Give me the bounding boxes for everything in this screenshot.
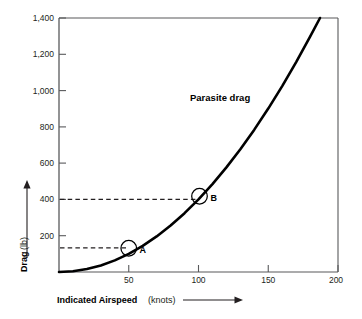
y-axis-title-group: Drag (lb) (19, 180, 31, 272)
xtick-label-200: 200 (329, 275, 343, 285)
ytick-label-600: 600 (40, 158, 54, 168)
curve-label-parasite-drag: Parasite drag (190, 92, 250, 103)
plot-frame (59, 18, 338, 272)
ytick-label-1400: 1,400 (33, 13, 55, 23)
point-marker-b (192, 188, 208, 204)
chart-page: 1,400 1,200 1,000 800 600 400 200 50 100… (0, 0, 362, 319)
y-axis-title-bold: Drag (19, 251, 29, 272)
point-label-b: B (211, 193, 218, 203)
ytick-label-400: 400 (40, 194, 54, 204)
xtick-label-150: 150 (261, 275, 275, 285)
ytick-label-1000: 1,000 (33, 86, 55, 96)
ytick-label-800: 800 (40, 122, 54, 132)
x-axis-tick-labels: 50 100 150 200 (124, 275, 343, 285)
ytick-label-200: 200 (40, 231, 54, 241)
x-axis-arrow-head-right-icon (235, 297, 244, 304)
x-axis-title-unit: (knots) (148, 295, 176, 305)
ytick-label-1200: 1,200 (33, 49, 55, 59)
point-label-a: A (140, 245, 147, 255)
xtick-label-50: 50 (124, 275, 134, 285)
xtick-label-100: 100 (191, 275, 205, 285)
x-axis-title-group: Indicated Airspeed (knots) (57, 295, 243, 305)
y-axis-tick-labels: 1,400 1,200 1,000 800 600 400 200 (33, 13, 55, 241)
parasite-drag-chart: 1,400 1,200 1,000 800 600 400 200 50 100… (0, 0, 362, 319)
parasite-drag-curve (59, 18, 320, 272)
y-axis-title-unit: (lb) (19, 237, 29, 250)
y-axis-arrow-head-up-icon (23, 180, 30, 189)
x-axis-title-bold: Indicated Airspeed (57, 295, 137, 305)
x-axis-ticks (129, 265, 338, 272)
y-axis-ticks (59, 18, 66, 236)
